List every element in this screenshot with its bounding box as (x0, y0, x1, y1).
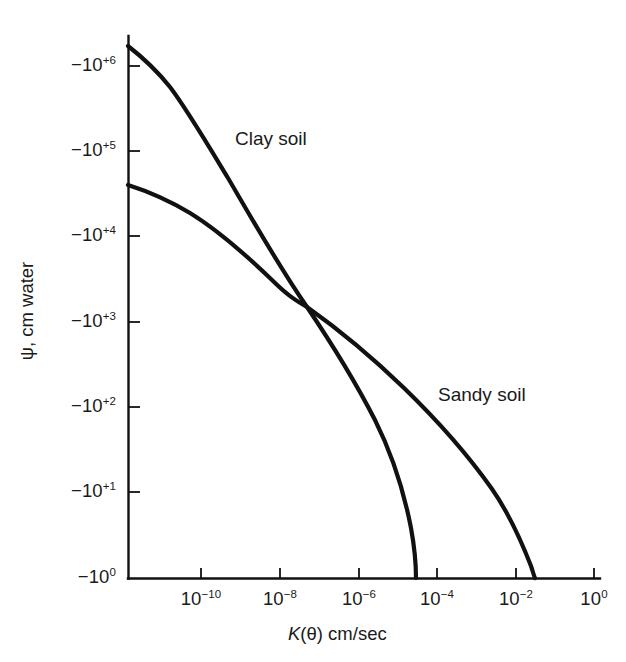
x-tick-label-4: 10−2 (476, 590, 556, 609)
x-tick-label-5: 100 (554, 590, 626, 609)
x-axis-title-symbol: K (288, 623, 300, 644)
y-tick-label-1: −10+5 (28, 141, 116, 160)
y-tick-label-3: −10+3 (28, 312, 116, 331)
x-tick-label-3: 10−4 (397, 590, 477, 609)
y-axis-title-symbol: ψ (16, 347, 37, 360)
y-tick-label-0: −10+6 (28, 56, 116, 75)
y-axis-title: ψ, cm water (14, 236, 40, 386)
y-tick-label-4: −10+2 (28, 397, 116, 416)
series-curve-clay-soil (128, 46, 416, 578)
series-annotation-clay-soil: Clay soil (235, 128, 307, 150)
x-axis-title-text: (θ) cm/sec (300, 623, 386, 644)
soil-hydraulic-conductivity-chart: −10+6 −10+5 −10+4 −10+3 −10+2 −10+1 −100… (0, 0, 626, 662)
x-axis-title: K(θ) cm/sec (288, 623, 387, 645)
y-tick-label-5: −10+1 (28, 482, 116, 501)
plot-canvas (0, 0, 626, 662)
y-axis-title-text: , cm water (16, 262, 37, 347)
y-tick-label-6: −100 (28, 568, 116, 587)
y-tick-label-2: −10+4 (28, 226, 116, 245)
x-tick-label-0: 10−10 (161, 590, 241, 609)
x-tick-label-1: 10−8 (240, 590, 320, 609)
series-curve-sandy-soil (128, 185, 535, 578)
series-annotation-sandy-soil: Sandy soil (438, 384, 526, 406)
y-axis-ticks (129, 66, 141, 492)
x-tick-label-2: 10−6 (319, 590, 399, 609)
